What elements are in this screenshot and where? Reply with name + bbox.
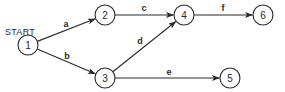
node-label: 2 <box>102 10 108 21</box>
node-1: 1 <box>18 35 38 55</box>
edges-layer: abcdef <box>37 3 252 78</box>
nodes-layer: 123456 <box>18 5 273 88</box>
edge-f: f <box>194 3 253 15</box>
node-3: 3 <box>95 68 115 88</box>
node-label: 1 <box>25 40 31 51</box>
network-diagram: abcdef 123456 START <box>0 0 285 92</box>
edge-d: d <box>113 22 176 72</box>
node-label: 3 <box>102 73 108 84</box>
node-5: 5 <box>220 68 240 88</box>
edge-c: c <box>115 3 174 15</box>
edge-label: b <box>64 51 70 61</box>
edge-label: f <box>222 3 226 13</box>
edge-a: a <box>37 19 95 42</box>
node-label: 5 <box>227 73 233 84</box>
start-label: START <box>5 27 35 37</box>
edge-label: d <box>137 36 143 46</box>
node-4: 4 <box>174 5 194 25</box>
edge-label: e <box>166 67 171 77</box>
edge-e: e <box>115 67 220 78</box>
node-6: 6 <box>253 5 273 25</box>
node-label: 6 <box>260 10 266 21</box>
edge-arrow-icon <box>113 22 176 72</box>
edge-b: b <box>37 49 95 74</box>
node-2: 2 <box>95 5 115 25</box>
edge-label: c <box>141 3 146 13</box>
edge-label: a <box>63 19 69 29</box>
node-label: 4 <box>181 10 187 21</box>
